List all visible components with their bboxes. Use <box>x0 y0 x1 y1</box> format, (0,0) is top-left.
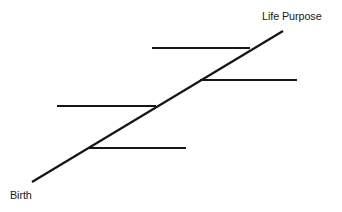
horizontal-rung-group <box>57 48 297 148</box>
diagram-canvas: Life Purpose Birth <box>0 0 342 212</box>
label-birth: Birth <box>10 189 32 202</box>
diagram-svg <box>0 0 342 212</box>
label-life-purpose: Life Purpose <box>262 10 322 23</box>
